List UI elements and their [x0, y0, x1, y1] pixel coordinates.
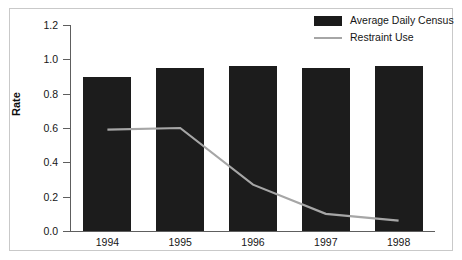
- x-axis-tick-label: 1994: [77, 236, 137, 248]
- x-axis-tick-label: 1997: [296, 236, 356, 248]
- black-square-swatch-icon: [313, 16, 343, 26]
- y-axis-tick-label: 0.2: [32, 191, 58, 203]
- x-axis-tick-label: 1996: [223, 236, 283, 248]
- y-axis-tick-label: 1.0: [32, 53, 58, 65]
- y-axis-tick-label: 1.2: [32, 19, 58, 31]
- y-axis-title: Rate: [10, 92, 22, 116]
- y-axis-tick-mark: [63, 231, 71, 232]
- y-axis-tick-mark: [63, 25, 71, 26]
- y-axis-tick-label: 0.4: [32, 156, 58, 168]
- x-axis-tick-label: 1995: [150, 236, 210, 248]
- y-axis-tick-mark: [63, 197, 71, 198]
- y-axis-tick-label: 0.6: [32, 122, 58, 134]
- y-axis-tick-mark: [63, 94, 71, 95]
- chart-figure: Average Daily Census Restraint Use Rate …: [0, 0, 462, 260]
- y-axis-tick-mark: [63, 162, 71, 163]
- y-axis-tick-labels: 0.00.20.40.60.81.01.2: [28, 0, 58, 260]
- x-axis-tick-label: 1998: [369, 236, 429, 248]
- y-axis-tick-mark: [63, 128, 71, 129]
- y-axis-tick-mark: [63, 59, 71, 60]
- x-axis-line: [70, 231, 435, 232]
- restraint-use-line-series: [71, 25, 435, 231]
- y-axis-tick-label: 0.8: [32, 88, 58, 100]
- y-axis-tick-label: 0.0: [32, 225, 58, 237]
